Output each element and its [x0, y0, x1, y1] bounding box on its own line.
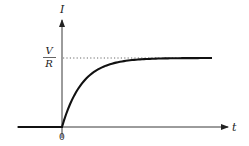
asymptote-label-denominator: R [44, 58, 53, 69]
asymptote-label-numerator: V [45, 45, 54, 56]
x-axis-label: t [232, 121, 237, 134]
origin-label: 0 [59, 132, 65, 142]
rl-current-diagram: I t 0 V R [0, 0, 249, 146]
y-axis-label: I [59, 3, 65, 16]
